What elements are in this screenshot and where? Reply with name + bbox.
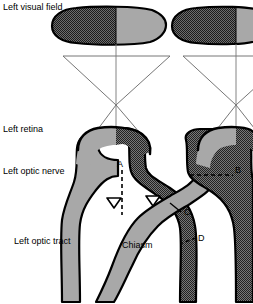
right-visual-field-ellipse	[172, 6, 253, 44]
label-left-optic-tract: Left optic tract	[14, 237, 71, 246]
right-field-light-half	[236, 6, 253, 44]
visual-pathway-diagram	[0, 0, 253, 304]
lesion-marker-a-label: A	[117, 160, 123, 169]
label-left-retina: Left retina	[3, 125, 43, 134]
label-left-optic-nerve: Left optic nerve	[3, 167, 65, 176]
lesion-marker-b-label: B	[235, 166, 241, 175]
left-visual-field-ellipse	[52, 6, 166, 45]
label-left-visual-field: Left visual field	[3, 3, 63, 12]
lesion-marker-d-label: D	[198, 234, 205, 243]
visual-pathway-figure: Left visual field Left retina Left optic…	[0, 0, 253, 304]
lesion-marker-c-label: C	[184, 208, 191, 217]
label-chiasm: Chiasm	[122, 241, 153, 250]
